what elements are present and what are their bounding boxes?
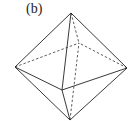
edge-right-back: [79, 43, 127, 68]
octahedron-diagram: [0, 0, 135, 121]
edge-front-bottom: [62, 90, 70, 120]
edge-top-left: [15, 13, 71, 67]
edge-right-bottom: [70, 68, 127, 120]
edge-left-bottom: [15, 67, 70, 120]
edge-bottom-back: [70, 43, 79, 120]
edge-top-right: [71, 13, 127, 68]
edge-right-front: [62, 68, 127, 90]
edge-left-front: [15, 67, 62, 90]
edge-left-back: [15, 43, 79, 67]
edge-top-front: [62, 13, 71, 90]
